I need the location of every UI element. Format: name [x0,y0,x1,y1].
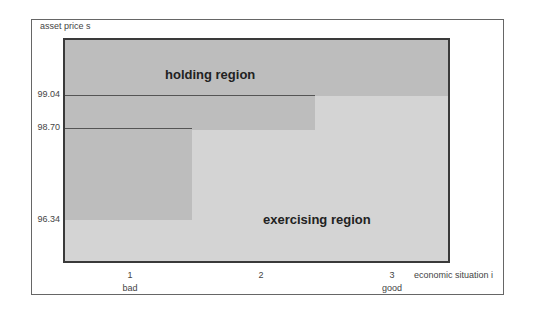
y-tick-96-34: 96.34 [30,214,60,224]
x-tick-1: 1 [115,270,145,280]
holding-region-band-top [65,40,448,96]
plot-area: holding region exercising region [63,38,450,263]
x-tick-2: 2 [246,270,276,280]
x-axis-label: economic situation i [414,270,493,280]
x-tick-3: 3 [377,270,407,280]
holding-region-label: holding region [165,67,255,82]
y-tick-98-70: 98.70 [30,122,60,132]
x-tick-3-sublabel: good [372,283,412,293]
x-tick-1-sublabel: bad [110,283,150,293]
holding-region-band-state2 [65,96,315,130]
holding-region-band-state1 [65,130,192,220]
threshold-line-99-04 [65,95,315,96]
y-axis-label: asset price s [40,21,91,31]
y-tick-99-04: 99.04 [30,89,60,99]
exercising-region-label: exercising region [263,212,371,227]
threshold-line-98-70 [65,128,192,129]
